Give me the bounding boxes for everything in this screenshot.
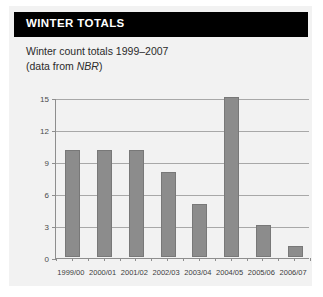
x-axis-label: 2003/04 — [184, 268, 211, 277]
x-tick-mark — [104, 258, 105, 261]
x-tick-mark — [56, 258, 57, 261]
y-tick-mark — [52, 163, 56, 164]
chart-bar — [288, 246, 303, 257]
data-source-name: NBR — [77, 60, 99, 72]
x-axis-label: 2001/02 — [121, 268, 148, 277]
y-axis-label: 12 — [40, 127, 49, 136]
y-tick-mark — [52, 99, 56, 100]
x-tick-mark — [310, 258, 311, 261]
x-axis-label: 2005/06 — [248, 268, 275, 277]
chart-bars — [57, 99, 309, 257]
chart-bar — [256, 225, 271, 257]
chart-bar — [161, 172, 176, 257]
winter-totals-card: WINTER TOTALS Winter count totals 1999–2… — [9, 6, 312, 286]
chart-subtitle: Winter count totals 1999–2007 (data from… — [26, 44, 168, 74]
x-tick-mark — [294, 258, 295, 261]
x-axis-label: 1999/00 — [57, 268, 84, 277]
y-axis-label: 0 — [45, 255, 49, 264]
chart-bar — [192, 204, 207, 257]
x-tick-mark — [231, 258, 232, 261]
x-tick-mark — [120, 258, 121, 261]
y-axis-label: 15 — [40, 95, 49, 104]
x-axis-label: 2000/01 — [89, 268, 116, 277]
x-tick-mark — [247, 258, 248, 261]
y-axis-label: 3 — [45, 223, 49, 232]
bar-chart: 03691215 1999/002000/012001/022002/03200… — [26, 90, 311, 280]
y-tick-mark — [52, 227, 56, 228]
y-tick-mark — [52, 131, 56, 132]
chart-subtitle-line-2: (data from NBR) — [26, 59, 168, 74]
y-axis-label: 9 — [45, 159, 49, 168]
data-source-suffix: ) — [99, 60, 103, 72]
x-tick-mark — [151, 258, 152, 261]
x-tick-mark — [278, 258, 279, 261]
chart-bar — [129, 150, 144, 257]
chart-bar — [97, 150, 112, 257]
x-axis-label: 2006/07 — [280, 268, 307, 277]
y-axis-label: 6 — [45, 191, 49, 200]
x-tick-mark — [262, 258, 263, 261]
chart-bar — [224, 97, 239, 257]
x-tick-mark — [199, 258, 200, 261]
chart-plot-area: 03691215 — [55, 99, 309, 259]
x-tick-mark — [167, 258, 168, 261]
x-axis-label: 2004/05 — [216, 268, 243, 277]
x-tick-mark — [72, 258, 73, 261]
x-axis-label: 2002/03 — [153, 268, 180, 277]
x-tick-mark — [183, 258, 184, 261]
x-tick-mark — [215, 258, 216, 261]
y-tick-mark — [52, 195, 56, 196]
data-source-prefix: (data from — [26, 60, 77, 72]
chart-subtitle-line-1: Winter count totals 1999–2007 — [26, 44, 168, 59]
chart-bar — [65, 150, 80, 257]
x-tick-mark — [88, 258, 89, 261]
x-tick-mark — [135, 258, 136, 261]
page-title: WINTER TOTALS — [26, 17, 125, 29]
card-header-bar: WINTER TOTALS — [14, 12, 308, 37]
